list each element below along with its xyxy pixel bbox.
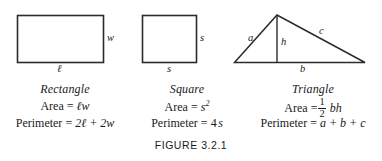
- triangle-area-label: Area: [284, 101, 307, 115]
- triangle-perimeter-formula: Perimeter = a + b + c: [244, 116, 382, 131]
- rectangle-area-expression: ℓw: [77, 99, 90, 113]
- square-svg: [124, 0, 250, 78]
- triangle-left-side-label: a: [248, 33, 253, 44]
- figure-3-2-1: w ℓ Rectangle Area = ℓw Perimeter = 2ℓ +…: [0, 0, 382, 161]
- triangle-area-fraction-numerator: 1: [318, 97, 325, 108]
- square-perimeter-equals: =: [201, 116, 208, 130]
- rectangle-width-label: w: [107, 33, 114, 44]
- square-perimeter-variable: s: [217, 116, 223, 130]
- square-perimeter-coefficient: 4: [211, 116, 217, 130]
- panel-rectangle: w ℓ Rectangle Area = ℓw Perimeter = 2ℓ +…: [0, 0, 130, 135]
- square-area-expression: s2: [201, 100, 210, 114]
- triangle-perimeter-label: Perimeter: [261, 116, 308, 130]
- rectangle-area-formula: Area = ℓw: [0, 99, 130, 114]
- triangle-area-product: bh: [327, 101, 342, 115]
- square-area-formula: Area = s2: [124, 99, 250, 115]
- triangle-drawing: a h c b: [244, 0, 382, 78]
- triangle-right-side-label: c: [319, 26, 324, 37]
- rectangle-perimeter-label: Perimeter: [16, 116, 63, 130]
- triangle-base-label: b: [300, 64, 305, 75]
- figure-caption: FIGURE 3.2.1: [0, 139, 382, 151]
- triangle-perimeter-equals: =: [310, 116, 317, 130]
- rectangle-length-label: ℓ: [57, 64, 61, 75]
- triangle-perimeter-expression: a + b + c: [320, 116, 366, 130]
- square-bottom-side-label: s: [167, 64, 171, 75]
- square-area-equals: =: [191, 100, 198, 114]
- rectangle-area-label: Area: [40, 99, 63, 113]
- panel-triangle: a h c b Triangle Area =12bh Perimeter = …: [244, 0, 382, 135]
- triangle-outline: [235, 15, 366, 63]
- square-area-label: Area: [165, 100, 188, 114]
- rectangle-perimeter-expression: 2ℓ + 2w: [75, 116, 114, 130]
- square-name: Square: [124, 82, 250, 97]
- triangle-name: Triangle: [244, 82, 382, 97]
- panel-square: s s Square Area = s2 Perimeter = 4s: [124, 0, 250, 135]
- rectangle-perimeter-equals: =: [65, 116, 72, 130]
- rectangle-perimeter-formula: Perimeter = 2ℓ + 2w: [0, 116, 130, 131]
- triangle-area-equals: =: [311, 101, 318, 115]
- square-outline: [143, 16, 197, 63]
- square-area-exponent: 2: [205, 99, 209, 108]
- triangle-svg: [244, 0, 382, 78]
- square-perimeter-formula: Perimeter = 4s: [124, 116, 250, 131]
- square-right-side-label: s: [200, 33, 204, 44]
- triangle-height-label: h: [281, 37, 286, 48]
- square-perimeter-label: Perimeter: [151, 116, 198, 130]
- rectangle-area-equals: =: [67, 99, 74, 113]
- rectangle-drawing: w ℓ: [0, 0, 130, 78]
- square-drawing: s s: [124, 0, 250, 78]
- rectangle-outline: [18, 16, 104, 63]
- rectangle-name: Rectangle: [0, 82, 130, 97]
